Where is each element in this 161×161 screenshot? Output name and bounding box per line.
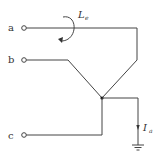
loop-label-sub: e [85, 14, 89, 21]
wire-ground [102, 98, 138, 145]
wire-b [26, 60, 102, 98]
current-arrow-icon [136, 125, 139, 130]
terminal-b-label: b [8, 54, 14, 65]
ground-icon [132, 145, 144, 150]
wire-c [26, 98, 102, 135]
terminal-c-label: c [8, 130, 14, 141]
rotation-arrow-icon [58, 17, 74, 43]
wire-a [26, 28, 137, 98]
current-label-sub: a [149, 127, 153, 134]
terminal-b [22, 58, 27, 63]
terminal-a-label: a [8, 22, 14, 33]
terminal-a [22, 26, 27, 31]
current-label: I [142, 122, 148, 133]
loop-label: L [77, 9, 85, 20]
circuit-diagram: a L e b c I a [0, 0, 161, 161]
terminal-c [22, 133, 27, 138]
